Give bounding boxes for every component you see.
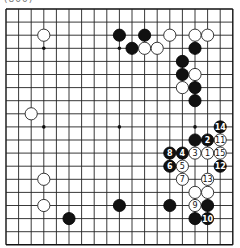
stone-icon — [139, 42, 151, 54]
stone-icon — [113, 199, 125, 211]
black-stone — [176, 68, 188, 80]
white-stone: 13 — [202, 173, 214, 185]
white-stone: 9 — [189, 199, 201, 211]
black-stone — [126, 42, 138, 54]
stone-icon — [189, 134, 201, 146]
move-number: 3 — [192, 149, 197, 158]
white-stone — [189, 68, 201, 80]
black-stone — [164, 199, 176, 211]
stone-icon — [151, 42, 163, 54]
move-number: 2 — [205, 136, 211, 145]
black-stone: 8 — [164, 147, 176, 159]
stone-icon — [38, 29, 50, 41]
white-stone — [189, 186, 201, 198]
move-number: 10 — [202, 215, 214, 224]
white-stone — [176, 82, 188, 94]
white-stone: 15 — [214, 147, 226, 159]
stone-icon — [164, 199, 176, 211]
star-point — [118, 125, 122, 129]
white-stone — [25, 108, 37, 120]
stone-icon — [189, 82, 201, 94]
black-stone: 6 — [164, 160, 176, 172]
stone-icon — [38, 199, 50, 211]
white-stone — [189, 29, 201, 41]
white-stone: 7 — [176, 173, 188, 185]
black-stone — [202, 199, 214, 211]
black-stone — [189, 213, 201, 225]
white-stone: 1 — [202, 147, 214, 159]
star-point — [193, 125, 197, 129]
move-number: 14 — [215, 123, 227, 132]
black-stone: 12 — [214, 160, 226, 172]
star-point — [118, 47, 122, 51]
white-stone — [139, 42, 151, 54]
black-stone — [113, 29, 125, 41]
stone-icon — [38, 173, 50, 185]
black-stone: 14 — [214, 121, 226, 133]
stone-icon — [164, 29, 176, 41]
stone-icon — [25, 108, 37, 120]
black-stone — [189, 134, 201, 146]
move-number: 8 — [167, 149, 173, 158]
black-stone: 4 — [176, 147, 188, 159]
white-stone — [151, 42, 163, 54]
stone-icon — [189, 42, 201, 54]
stone-icon — [189, 186, 201, 198]
move-number: 15 — [215, 149, 225, 158]
move-number: 1 — [205, 149, 210, 158]
move-number: 12 — [215, 162, 226, 171]
black-stone — [139, 29, 151, 41]
stone-icon — [113, 29, 125, 41]
stone-icon — [139, 29, 151, 41]
stone-icon — [202, 186, 214, 198]
stone-icon — [189, 68, 201, 80]
white-stone — [202, 29, 214, 41]
white-stone: 3 — [189, 147, 201, 159]
black-stone — [63, 213, 75, 225]
white-stone — [38, 29, 50, 41]
white-stone — [38, 199, 50, 211]
star-point — [42, 47, 46, 51]
move-number: 5 — [180, 162, 185, 171]
stone-icon — [126, 42, 138, 54]
white-stone — [202, 186, 214, 198]
white-stone: 5 — [176, 160, 188, 172]
black-stone — [189, 82, 201, 94]
stone-icon — [189, 29, 201, 41]
stone-icon — [176, 82, 188, 94]
stone-icon — [176, 68, 188, 80]
stone-icon — [202, 29, 214, 41]
go-board: 142118431156512713910 — [0, 0, 240, 248]
black-stone: 2 — [202, 134, 214, 146]
move-number: 4 — [180, 149, 186, 158]
stone-icon — [189, 95, 201, 107]
stone-icon — [189, 213, 201, 225]
black-stone — [176, 55, 188, 67]
move-number: 13 — [203, 175, 213, 184]
stone-icon — [176, 55, 188, 67]
move-number: 7 — [180, 175, 185, 184]
move-number: 11 — [215, 136, 225, 145]
star-point — [42, 125, 46, 129]
move-number: 9 — [192, 201, 197, 210]
white-stone — [38, 173, 50, 185]
white-stone — [164, 29, 176, 41]
stone-icon — [63, 213, 75, 225]
black-stone: 10 — [202, 213, 214, 225]
stone-icon — [202, 199, 214, 211]
black-stone — [189, 95, 201, 107]
move-number: 6 — [167, 162, 173, 171]
black-stone — [113, 199, 125, 211]
white-stone: 11 — [214, 134, 226, 146]
black-stone — [189, 42, 201, 54]
